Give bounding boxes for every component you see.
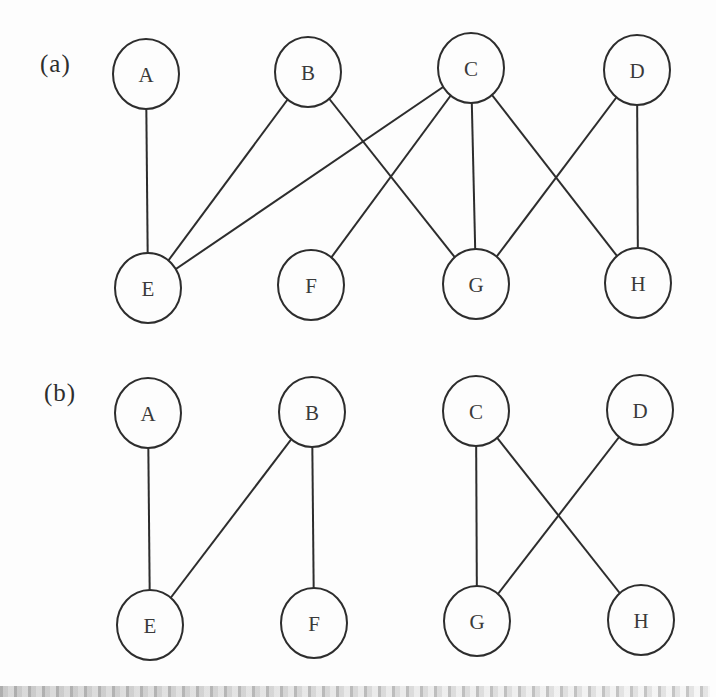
node-label-a-C: C [464, 57, 478, 81]
node-label-b-G: G [469, 610, 484, 634]
node-label-b-A: A [140, 402, 156, 426]
node-label-b-B: B [305, 401, 319, 425]
node-label-b-F: F [308, 612, 320, 636]
node-label-a-G: G [468, 273, 483, 297]
node-label-a-B: B [301, 61, 315, 85]
node-label-b-E: E [144, 614, 157, 638]
graph-figure: ABCDEFGHABCDEFGH (a) (b) [0, 0, 716, 697]
node-label-a-A: A [138, 63, 154, 87]
edge-B-E [150, 412, 312, 625]
panel-a-label: (a) [40, 50, 71, 78]
node-label-b-H: H [633, 609, 648, 633]
node-label-a-F: F [305, 274, 317, 298]
node-label-b-C: C [469, 400, 483, 424]
node-label-a-E: E [142, 277, 155, 301]
page-scan-artifact [0, 686, 710, 697]
edge-C-F [311, 68, 471, 285]
edge-B-G [308, 72, 476, 284]
panel-b-label: (b) [44, 379, 76, 407]
graph-canvas: ABCDEFGHABCDEFGH [0, 0, 716, 697]
panel-a: ABCDEFGH [113, 33, 671, 323]
edge-C-H [471, 68, 638, 283]
panel-b: ABCDEFGH [115, 375, 674, 660]
node-label-b-D: D [632, 399, 647, 423]
node-label-a-D: D [629, 59, 644, 83]
edge-B-E [148, 72, 308, 288]
node-label-a-H: H [630, 272, 645, 296]
